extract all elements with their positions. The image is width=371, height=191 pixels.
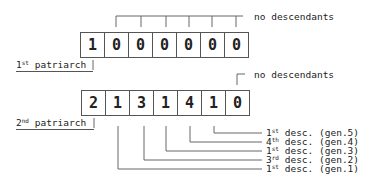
array-cell: 1: [106, 91, 130, 115]
descendant-label: 1st desc. (gen.1): [266, 163, 359, 174]
array-cell: 2: [82, 91, 106, 115]
array-cell: 0: [225, 33, 248, 57]
second-patriarch-label: 2nd patriarch: [16, 117, 94, 130]
array-cell: 0: [129, 33, 153, 57]
array-cell: 3: [130, 91, 154, 115]
array-cell: 1: [202, 91, 226, 115]
array-cell: 4: [178, 91, 202, 115]
no-descendants-label-1: no descendants: [254, 11, 334, 22]
array-cell: 1: [81, 33, 105, 57]
second-patriarch-array: 2 1 3 1 4 1 0: [81, 90, 250, 116]
no-descendants-label-2: no descendants: [254, 69, 334, 80]
array-cell: 0: [177, 33, 201, 57]
array-cell: 0: [153, 33, 177, 57]
first-patriarch-array: 1 0 0 0 0 0 0: [80, 32, 249, 58]
array-cell: 0: [105, 33, 129, 57]
first-patriarch-label: 1st patriarch: [16, 59, 93, 72]
array-cell: 0: [201, 33, 225, 57]
array-cell: 0: [226, 91, 249, 115]
array-cell: 1: [154, 91, 178, 115]
